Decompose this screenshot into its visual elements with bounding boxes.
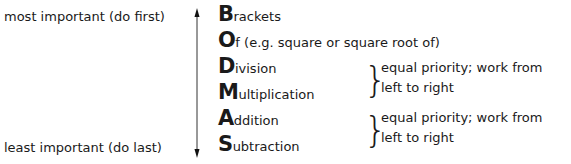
row-of: Of (e.g. square or square root of) [218, 28, 440, 52]
label-least-important: least important (do last) [4, 140, 162, 155]
note-line: left to right [381, 128, 542, 148]
row-brackets: Brackets [218, 2, 281, 26]
note-line: equal priority; work from [381, 58, 542, 78]
note-div-mult: equal priority; work fromleft to right [381, 58, 542, 98]
row-text: f (e.g. square or square root of) [235, 35, 440, 50]
note-line: left to right [381, 78, 542, 98]
row-addition: Addition [218, 106, 279, 130]
row-text: rackets [234, 9, 281, 24]
row-letter: O [218, 28, 235, 52]
row-division: Division [218, 54, 276, 78]
row-text: ultiplication [238, 87, 314, 102]
label-most-important: most important (do first) [4, 9, 165, 24]
priority-arrow-icon [193, 8, 201, 158]
row-multiplication: Multiplication [218, 80, 314, 104]
note-add-sub: equal priority; work fromleft to right [381, 108, 542, 148]
note-line: equal priority; work from [381, 108, 542, 128]
row-text: ubtraction [233, 139, 300, 154]
row-letter: S [218, 132, 233, 156]
row-text: ivision [235, 61, 277, 76]
row-letter: D [218, 54, 235, 78]
row-text: ddition [234, 113, 279, 128]
row-letter: A [218, 106, 234, 130]
row-subtraction: Subtraction [218, 132, 300, 156]
row-letter: B [218, 2, 234, 26]
row-letter: M [218, 80, 238, 104]
